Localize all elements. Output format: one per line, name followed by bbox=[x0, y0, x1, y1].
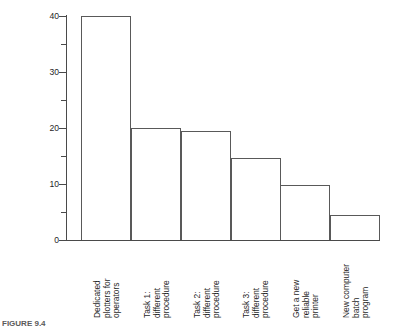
y-tick-major bbox=[59, 184, 67, 185]
y-tick-minor bbox=[61, 212, 67, 213]
x-category-label: Dedicated plotters for operators bbox=[93, 240, 122, 318]
figure-container: Expected percentage improvement 01020304… bbox=[0, 0, 396, 328]
figure-caption: FIGURE 9.4 bbox=[2, 319, 394, 328]
x-category-label: Task 2: different procedure bbox=[193, 240, 222, 318]
x-category-label: New computer batch program bbox=[342, 240, 371, 318]
y-tick-major bbox=[59, 72, 67, 73]
x-category-label: Get a new reliable printer bbox=[292, 240, 321, 318]
bar bbox=[330, 215, 380, 240]
bar bbox=[131, 128, 181, 240]
y-tick-minor bbox=[61, 100, 67, 101]
y-tick-label: 30 bbox=[19, 68, 59, 77]
y-tick-label: 20 bbox=[19, 124, 59, 133]
y-tick-major bbox=[59, 16, 67, 17]
y-tick-minor bbox=[61, 156, 67, 157]
figure-caption-label: FIGURE 9.4 bbox=[2, 319, 46, 328]
x-category-label: Task 3: different procedure bbox=[242, 240, 271, 318]
y-tick-label: 40 bbox=[19, 12, 59, 21]
bar bbox=[81, 16, 131, 240]
bar bbox=[231, 158, 281, 240]
y-tick-label: 0 bbox=[19, 236, 59, 245]
y-tick-label: 10 bbox=[19, 180, 59, 189]
bar bbox=[181, 131, 231, 240]
bar bbox=[280, 185, 330, 240]
y-tick-major bbox=[59, 240, 67, 241]
y-tick-minor bbox=[61, 44, 67, 45]
y-tick-major bbox=[59, 128, 67, 129]
x-category-label: Task 1: different procedure bbox=[143, 240, 172, 318]
